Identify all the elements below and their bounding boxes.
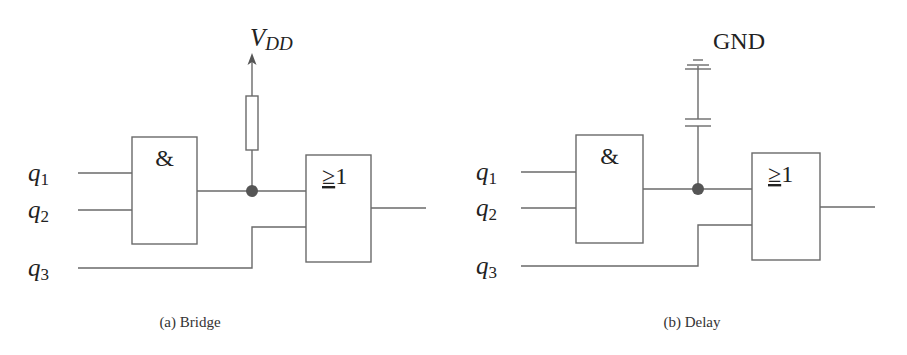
resistor — [246, 96, 258, 150]
input-label-q2: q2 — [476, 194, 497, 224]
figure-canvas: q1 q2 q3 & VDD ≥1 (a) Bridge q1 q2 q3 — [0, 0, 907, 355]
junction-node — [692, 183, 704, 195]
or-gate-label: ≥1 — [322, 163, 347, 189]
caption-a: (a) Bridge — [159, 314, 221, 331]
or-gate-label: ≥1 — [768, 161, 793, 187]
figure-a-bridge: q1 q2 q3 & VDD ≥1 (a) Bridge — [28, 24, 426, 331]
junction-node — [246, 185, 258, 197]
supply-label-vdd: VDD — [250, 24, 293, 54]
input-label-q3: q3 — [476, 252, 497, 282]
input-label-q2: q2 — [28, 196, 49, 226]
input-label-q3: q3 — [28, 254, 49, 284]
figure-b-delay: q1 q2 q3 & GND ≥1 (b) Delay — [476, 28, 875, 331]
and-gate-label: & — [600, 143, 619, 169]
and-gate-label: & — [155, 145, 174, 171]
supply-label-gnd: GND — [713, 28, 765, 54]
caption-b: (b) Delay — [663, 314, 721, 331]
input-label-q1: q1 — [28, 159, 49, 189]
input-label-q1: q1 — [476, 158, 497, 188]
